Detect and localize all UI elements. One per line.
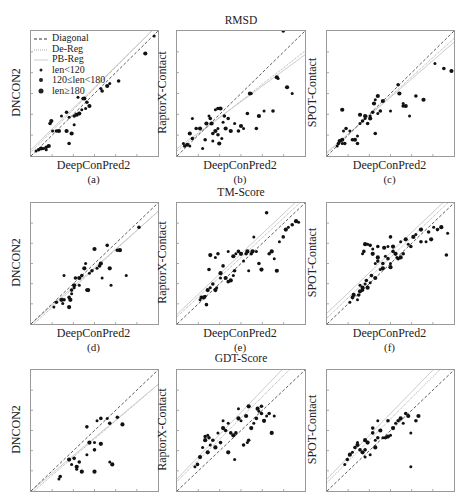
panel-label-e: (e) bbox=[176, 341, 304, 353]
y-axis-label-d: DNCON2 bbox=[9, 202, 24, 323]
x-axis-label-d: DeepConPred2 bbox=[30, 326, 157, 341]
x-axis-label-a: DeepConPred2 bbox=[30, 158, 157, 173]
y-axis-label-a: DNCON2 bbox=[9, 30, 24, 155]
y-axis-label-g: DNCON2 bbox=[9, 369, 24, 490]
scatter-plot-f bbox=[326, 202, 455, 325]
x-axis-label-c: DeepConPred2 bbox=[326, 158, 453, 173]
x-axis-label-e: DeepConPred2 bbox=[176, 326, 304, 341]
x-axis-label-b: DeepConPred2 bbox=[176, 158, 304, 173]
y-axis-label-e: RaptorX-Contact bbox=[155, 202, 170, 323]
row-title-gdt-score: GDT-Score bbox=[176, 352, 306, 364]
panel-label-a: (a) bbox=[30, 173, 157, 185]
panel-label-c: (c) bbox=[326, 173, 453, 185]
scatter-plot-d bbox=[30, 202, 159, 325]
legend-item-len-120-180: 120≤len<180 bbox=[34, 75, 105, 86]
legend-item-pb-reg: PB-Reg bbox=[34, 54, 105, 65]
scatter-plot-e bbox=[176, 202, 306, 325]
scatter-plot-b bbox=[176, 30, 306, 157]
x-axis-label-f: DeepConPred2 bbox=[326, 326, 453, 341]
row-title-rmsd: RMSD bbox=[176, 14, 306, 26]
y-axis-label-c: SPOT-Contact bbox=[305, 30, 320, 155]
legend-item-diagonal: Diagonal bbox=[34, 33, 105, 44]
scatter-plot-c bbox=[326, 30, 455, 157]
legend-item-len-gte-180: len≥180 bbox=[34, 86, 105, 97]
legend: Diagonal De-Reg PB-Reg len<120 120≤len<1… bbox=[34, 33, 105, 96]
panel-label-b: (b) bbox=[176, 173, 304, 185]
row-title-tm-score: TM-Score bbox=[176, 186, 306, 198]
scatter-plot-h bbox=[176, 369, 306, 492]
y-axis-label-b: RaptorX-Contact bbox=[155, 30, 170, 155]
scatter-plot-i bbox=[326, 369, 455, 492]
y-axis-label-h: RaptorX-Contact bbox=[155, 369, 170, 490]
scatter-plot-g bbox=[30, 369, 159, 492]
y-axis-label-i: SPOT-Contact bbox=[305, 369, 320, 490]
y-axis-label-f: SPOT-Contact bbox=[305, 202, 320, 323]
panel-label-f: (f) bbox=[326, 341, 453, 353]
panel-label-d: (d) bbox=[30, 341, 157, 353]
